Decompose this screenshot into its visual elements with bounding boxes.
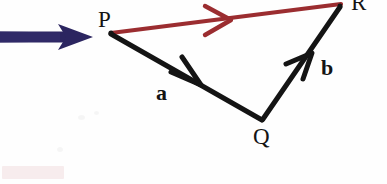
vector-resultant-pr — [111, 4, 341, 35]
point-label-p: P — [98, 8, 111, 31]
watermark-smudge — [2, 166, 64, 179]
scan-speck — [57, 147, 63, 152]
point-label-q: Q — [253, 125, 270, 148]
vector-label-b: b — [321, 57, 333, 79]
point-label-r: R — [351, 0, 366, 14]
figure-canvas: P Q R a b — [0, 0, 387, 184]
vector-label-a: a — [156, 82, 167, 104]
vector-a-pq — [111, 34, 262, 120]
scan-speck — [78, 115, 85, 120]
vertex-dot-q — [260, 118, 265, 123]
vector-diagram-svg — [0, 0, 387, 184]
navy-pointer-arrow — [0, 24, 93, 50]
scan-speck — [94, 111, 99, 115]
vertex-dot-r — [338, 4, 343, 9]
